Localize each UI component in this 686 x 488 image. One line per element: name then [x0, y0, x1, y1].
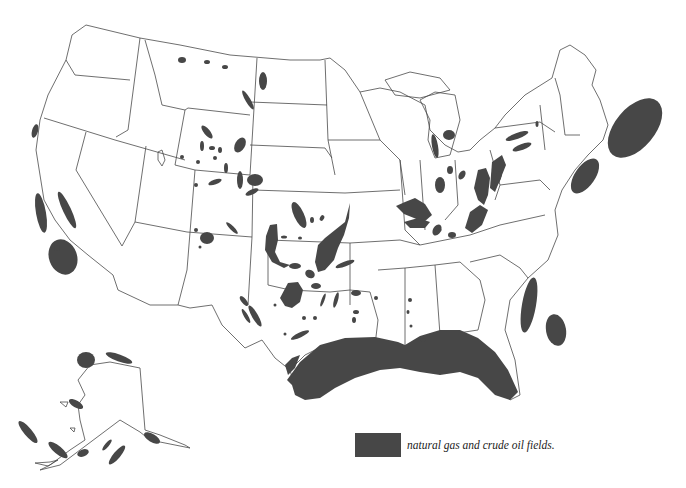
legend-swatch-oil-gas [355, 433, 401, 457]
legend-label: natural gas and crude oil fields. [407, 439, 555, 451]
us-oil-gas-fields-map [0, 0, 686, 488]
map-legend: natural gas and crude oil fields. [355, 433, 555, 457]
oil-gas-fields [16, 57, 673, 466]
